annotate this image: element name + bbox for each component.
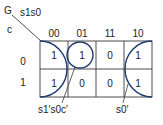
output-variable-label: G: [4, 5, 12, 16]
column-header: 10: [132, 28, 144, 39]
group-label-s1s0c: s1′s0c′: [38, 104, 68, 115]
column-header: 01: [76, 28, 88, 39]
cell-value: 1: [135, 78, 141, 89]
column-header: 11: [105, 28, 116, 39]
corner-diagonal: [12, 15, 41, 41]
karnaugh-map: G s1s0 c 00 01 11 10 0 1 1 1 0 1 1 0 0 1…: [0, 0, 163, 125]
cell-value: 0: [79, 78, 85, 89]
cell-value: 1: [79, 50, 85, 61]
pointer-line: [62, 67, 75, 103]
column-header: 00: [48, 28, 60, 39]
cell-value: 1: [135, 50, 141, 61]
group-label-s0: s0′: [116, 104, 129, 115]
row-header: 1: [20, 77, 26, 88]
cell-value: 1: [51, 50, 57, 61]
column-variables-label: s1s0: [20, 7, 42, 18]
cell-value: 0: [107, 78, 113, 89]
cell-value: 0: [107, 50, 113, 61]
row-variable-label: c: [7, 24, 12, 35]
cell-value: 1: [51, 78, 57, 89]
row-header: 0: [20, 56, 26, 67]
